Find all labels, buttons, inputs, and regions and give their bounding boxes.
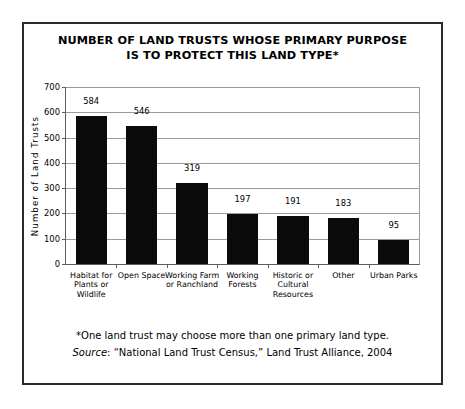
x-axis-category-label: Open Space	[113, 271, 169, 280]
source-line: Source: “National Land Trust Census,” La…	[24, 344, 441, 361]
footnote-asterisk: *One land trust may choose more than one…	[24, 327, 441, 344]
bar[interactable]	[227, 214, 258, 264]
bar[interactable]	[176, 183, 207, 264]
y-axis-tick-label: 300	[44, 183, 60, 193]
x-axis-tick-mark	[268, 264, 269, 268]
bar-value-label: 95	[369, 220, 419, 230]
chart-title: NUMBER OF LAND TRUSTS WHOSE PRIMARY PURP…	[24, 33, 441, 63]
y-axis-title: Number of Land Trusts	[30, 116, 40, 236]
x-axis-tick-mark	[116, 264, 117, 268]
y-axis-tick-label: 500	[44, 133, 60, 143]
bar-value-label: 546	[116, 106, 166, 116]
bar[interactable]	[76, 116, 107, 264]
bar-group: 584Habitat for Plants or Wildlife	[66, 87, 116, 264]
y-axis-tick-mark	[62, 264, 66, 265]
bar-value-label: 584	[66, 96, 116, 106]
footnotes-block: *One land trust may choose more than one…	[24, 327, 441, 361]
x-axis-category-label: Working Farm or Ranchland	[164, 271, 220, 290]
y-axis-tick-label: 600	[44, 107, 60, 117]
plot-wrapper: Number of Land Trusts 010020030040050060…	[65, 87, 420, 265]
bar-group: 95Urban Parks	[369, 87, 419, 264]
y-axis-tick-label: 0	[55, 259, 60, 269]
source-text: : “National Land Trust Census,” Land Tru…	[107, 347, 392, 358]
bar-group: 546Open Space	[116, 87, 166, 264]
bar[interactable]	[126, 126, 157, 264]
plot-area: 0100200300400500600700584Habitat for Pla…	[65, 87, 420, 265]
y-axis-tick-label: 200	[44, 208, 60, 218]
bar-group: 197Working Forests	[217, 87, 267, 264]
bar[interactable]	[378, 240, 409, 264]
bar-value-label: 319	[167, 163, 217, 173]
y-axis-tick-label: 400	[44, 158, 60, 168]
x-axis-tick-mark	[369, 264, 370, 268]
x-axis-tick-mark	[167, 264, 168, 268]
x-axis-category-label: Historic or Cultural Resources	[265, 271, 321, 299]
bar-group: 319Working Farm or Ranchland	[167, 87, 217, 264]
x-axis-tick-mark	[318, 264, 319, 268]
bar[interactable]	[277, 216, 308, 264]
x-axis-tick-mark	[217, 264, 218, 268]
x-axis-category-label: Working Forests	[214, 271, 270, 290]
bar-value-label: 191	[268, 196, 318, 206]
figure-panel: NUMBER OF LAND TRUSTS WHOSE PRIMARY PURP…	[22, 22, 443, 385]
bar-group: 183Other	[318, 87, 368, 264]
bar[interactable]	[328, 218, 359, 264]
y-axis-tick-label: 100	[44, 234, 60, 244]
x-axis-category-label: Urban Parks	[366, 271, 422, 280]
source-label: Source	[73, 347, 108, 358]
y-axis-tick-label: 700	[44, 82, 60, 92]
bar-value-label: 197	[217, 194, 267, 204]
bar-group: 191Historic or Cultural Resources	[268, 87, 318, 264]
bar-value-label: 183	[318, 198, 368, 208]
x-axis-category-label: Habitat for Plants or Wildlife	[63, 271, 119, 299]
x-axis-category-label: Other	[315, 271, 371, 280]
